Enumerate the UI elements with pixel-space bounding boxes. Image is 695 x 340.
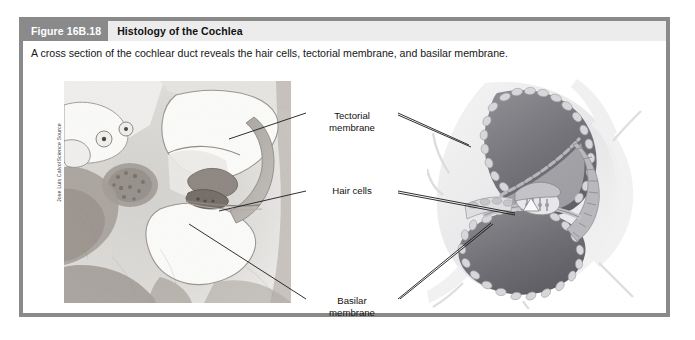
label-basilar-membrane: Basilar membrane	[309, 295, 395, 318]
label-basilar-line1: Basilar	[309, 295, 395, 307]
label-tectorial-line2: membrane	[309, 122, 395, 134]
figure-caption: A cross section of the cochlear duct rev…	[31, 47, 659, 60]
photo-credit: Jose Luis Calvo/Science Source	[56, 123, 62, 202]
label-tectorial-membrane: Tectorial membrane	[309, 110, 395, 133]
figure-container: Figure 16B.18 Histology of the Cochlea A…	[19, 17, 670, 317]
figure-artwork-area: Jose Luis Calvo/Science Source	[23, 67, 666, 313]
label-hair-cells: Hair cells	[309, 185, 395, 197]
label-basilar-line2: membrane	[309, 307, 395, 319]
histology-micrograph	[64, 81, 291, 303]
label-tectorial-line1: Tectorial	[309, 110, 395, 122]
figure-header: Figure 16B.18 Histology of the Cochlea	[23, 21, 666, 41]
figure-number-badge: Figure 16B.18	[23, 21, 108, 41]
figure-title: Histology of the Cochlea	[108, 21, 243, 41]
label-hair-cells-text: Hair cells	[309, 185, 395, 197]
cochlea-illustration	[427, 77, 642, 309]
